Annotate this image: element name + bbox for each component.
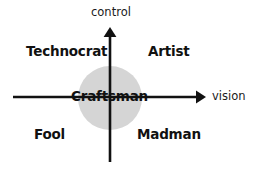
vision-axis-arrowhead [196,91,206,104]
quadrant-diagram: control vision Technocrat Artist Fool Ma… [0,0,259,171]
quadrant-label-madman: Madman [137,128,201,142]
control-axis-arrowhead [104,27,117,37]
diagram-canvas [0,0,259,171]
center-label-craftsman: Craftsman [71,90,148,104]
quadrant-label-technocrat: Technocrat [26,45,107,59]
quadrant-label-artist: Artist [148,45,189,59]
vision-axis-label: vision [212,91,246,103]
control-axis-label: control [91,7,131,19]
quadrant-label-fool: Fool [34,128,65,142]
